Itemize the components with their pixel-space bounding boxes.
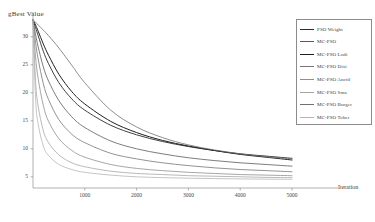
series-line	[33, 20, 292, 176]
legend-label: MC-PSO Sma	[317, 90, 347, 95]
legend-line-swatch	[300, 54, 314, 55]
axes	[31, 10, 339, 191]
legend-label: PSO Weight	[317, 27, 343, 32]
series-line	[33, 20, 292, 160]
legend-item[interactable]: PSO Weight	[300, 23, 372, 35]
y-tick-label: 20	[12, 89, 28, 95]
x-tick-label: 2000	[125, 192, 149, 198]
series-line	[33, 20, 292, 172]
y-tick-label: 30	[12, 33, 28, 39]
legend-line-swatch	[300, 117, 314, 118]
y-tick-label: 10	[12, 145, 28, 151]
legend-item[interactable]: MC-PSO	[300, 36, 372, 48]
series-lines	[33, 20, 292, 179]
convergence-chart-figure: gBest Value Iteration 30252015105 100020…	[0, 0, 375, 222]
legend-item[interactable]: MC-PSO Lodi	[300, 48, 372, 60]
legend: PSO WeightMC-PSOMC-PSO LodiMC-PSO DixiMC…	[296, 19, 372, 125]
legend-line-swatch	[300, 104, 314, 105]
legend-line-swatch	[300, 66, 314, 67]
y-tick-label: 5	[12, 173, 28, 179]
legend-line-swatch	[300, 92, 314, 93]
legend-item[interactable]: MC-PSO Burger	[300, 99, 372, 111]
x-tick-label: 1000	[73, 192, 97, 198]
legend-line-swatch	[300, 41, 314, 42]
series-line	[33, 20, 292, 166]
legend-item[interactable]: MC-PSO Sma	[300, 86, 372, 98]
x-tick-label: 5000	[280, 192, 304, 198]
legend-label: MC-PSO Anctil	[317, 77, 350, 82]
legend-item[interactable]: MC-PSO Dixi	[300, 61, 372, 73]
legend-line-swatch	[300, 79, 314, 80]
legend-item[interactable]: MC-PSO Tober	[300, 111, 372, 123]
x-tick-label: 4000	[228, 192, 252, 198]
legend-item[interactable]: MC-PSO Anctil	[300, 73, 372, 85]
legend-label: MC-PSO Dixi	[317, 64, 347, 69]
legend-label: MC-PSO Lodi	[317, 52, 347, 57]
legend-line-swatch	[300, 29, 314, 30]
legend-label: MC-PSO Burger	[317, 102, 352, 107]
y-tick-label: 25	[12, 61, 28, 67]
y-tick-label: 15	[12, 117, 28, 123]
legend-label: MC-PSO	[317, 39, 336, 44]
x-tick-label: 3000	[176, 192, 200, 198]
series-line	[33, 20, 292, 159]
legend-label: MC-PSO Tober	[317, 115, 350, 120]
